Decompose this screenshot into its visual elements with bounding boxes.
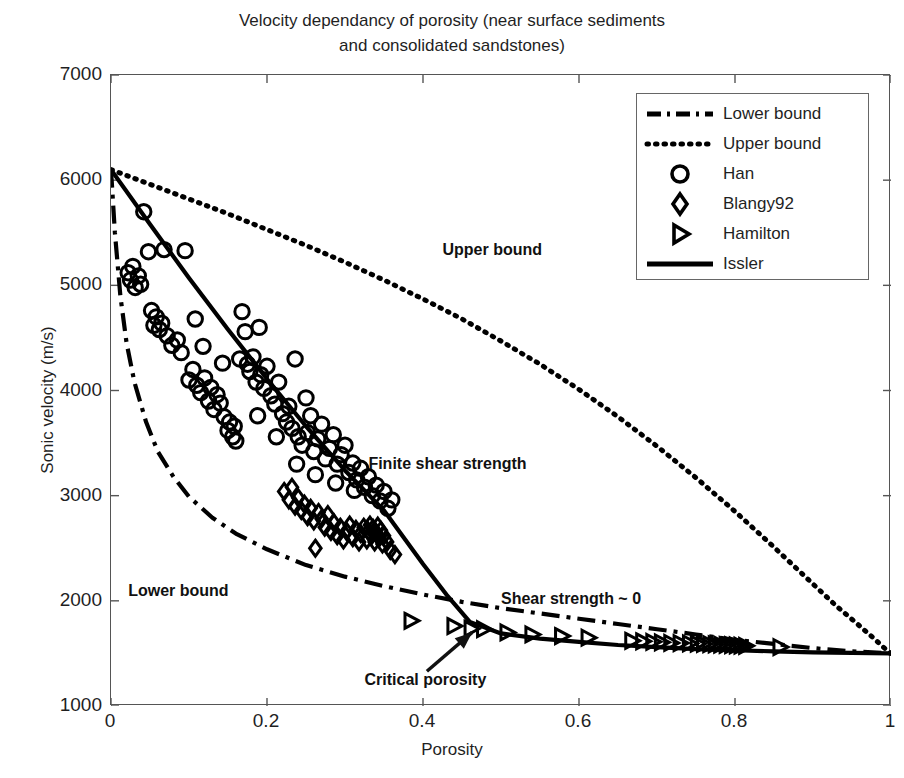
data-point — [215, 356, 229, 370]
legend-label: Han — [723, 164, 754, 184]
data-point — [272, 375, 286, 389]
shear-strength-zero-label: Shear strength ~ 0 — [501, 590, 641, 608]
x-tick-label: 0.4 — [409, 710, 435, 732]
legend-label: Lower bound — [723, 104, 821, 124]
critical-porosity-label: Critical porosity — [365, 671, 487, 689]
legend-marker-dashdot-line-icon — [637, 98, 723, 129]
legend-marker-solid-line-icon — [637, 248, 723, 279]
points-blangy92 — [278, 479, 400, 562]
legend-item-blangy92[interactable]: Blangy92 — [637, 188, 870, 219]
data-point — [238, 324, 252, 338]
data-point — [405, 613, 419, 628]
data-point — [299, 391, 313, 405]
x-axis-title: Porosity — [0, 740, 904, 760]
legend-item-lower-bound[interactable]: Lower bound — [637, 98, 870, 129]
data-point — [141, 244, 155, 258]
data-point — [269, 430, 283, 444]
finite-shear-strength-label: Finite shear strength — [368, 455, 526, 473]
chart-figure: Velocity dependancy of porosity (near su… — [0, 0, 904, 778]
x-tick-label: 1 — [885, 710, 896, 732]
data-point — [288, 352, 302, 366]
legend-item-issler[interactable]: Issler — [637, 248, 870, 279]
legend-label: Blangy92 — [723, 194, 794, 214]
x-tick-label: 0.2 — [253, 710, 279, 732]
legend-item-hamilton[interactable]: Hamilton — [637, 218, 870, 249]
upper-bound-label: Upper bound — [443, 241, 543, 259]
data-point — [178, 243, 192, 257]
points-hamilton — [405, 613, 788, 654]
points-han — [121, 205, 399, 516]
legend-label: Hamilton — [723, 224, 790, 244]
data-point — [250, 409, 264, 423]
legend-marker-triangle-right-icon — [637, 218, 723, 249]
legend-item-han[interactable]: Han — [637, 158, 870, 189]
lower-bound-label: Lower bound — [128, 582, 228, 600]
data-point — [310, 540, 322, 556]
chart-legend: Lower boundUpper boundHanBlangy92Hamilto… — [636, 93, 869, 280]
critical-porosity-arrow — [427, 632, 472, 671]
data-point — [308, 467, 322, 481]
legend-marker-dotted-line-icon — [637, 128, 723, 159]
data-point — [188, 312, 202, 326]
legend-item-upper-bound[interactable]: Upper bound — [637, 128, 870, 159]
x-tick-label: 0.8 — [721, 710, 747, 732]
data-point — [289, 457, 303, 471]
y-axis-title: Sonic velocity (m/s) — [38, 290, 58, 510]
data-point — [448, 619, 462, 634]
legend-label: Issler — [723, 254, 764, 274]
data-point — [328, 476, 342, 490]
data-point — [389, 547, 401, 563]
x-tick-label: 0.6 — [565, 710, 591, 732]
legend-marker-circle-icon — [637, 158, 723, 189]
legend-label: Upper bound — [723, 134, 821, 154]
data-point — [229, 434, 243, 448]
x-tick-label: 0 — [105, 710, 116, 732]
data-point — [196, 339, 210, 353]
data-point — [252, 320, 266, 334]
legend-marker-diamond-icon — [637, 188, 723, 219]
data-point — [235, 304, 249, 318]
